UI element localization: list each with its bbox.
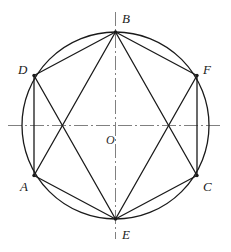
vertex-label-F: F xyxy=(203,63,211,76)
vertex-label-C: C xyxy=(203,180,212,193)
vertex-label-E: E xyxy=(122,228,130,241)
center-label-O: O xyxy=(106,134,115,146)
vertex-label-D: D xyxy=(18,63,27,76)
centerlines-group xyxy=(8,12,223,239)
geometry-figure: A B C D E F O xyxy=(0,0,231,252)
vertex-dot-F xyxy=(195,74,198,77)
vertex-dot-E xyxy=(114,217,117,220)
figure-canvas xyxy=(0,0,231,252)
vertex-label-A: A xyxy=(20,180,28,193)
vertex-label-B: B xyxy=(122,12,130,25)
vertex-dot-A xyxy=(32,174,35,177)
vertex-dot-C xyxy=(195,174,198,177)
vertex-dot-D xyxy=(32,74,35,77)
vertex-dot-B xyxy=(114,30,117,33)
